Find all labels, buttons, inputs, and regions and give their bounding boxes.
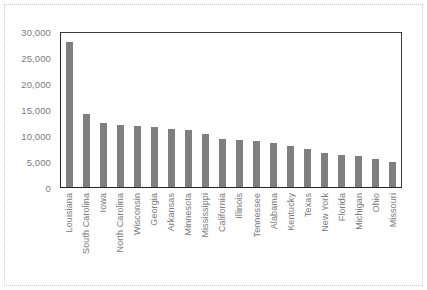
x-axis-tick-label: Michigan <box>354 193 364 230</box>
x-axis-tick-label: New York <box>320 193 330 232</box>
x-axis-tick: Florida <box>334 188 351 283</box>
bar-slot <box>197 33 214 187</box>
x-axis-tick-label: California <box>217 193 227 232</box>
bar-slot <box>333 33 350 187</box>
x-axis-tick: Alabama <box>265 188 282 283</box>
bar-slot <box>180 33 197 187</box>
x-axis-tick: Texas <box>299 188 316 283</box>
x-axis-tick-label: Mississippi <box>200 193 210 238</box>
bar[interactable] <box>100 123 107 187</box>
x-axis-tick-label: Alabama <box>269 193 279 229</box>
x-axis-tick-label: South Carolina <box>81 193 91 254</box>
x-axis-tick: North Carolina <box>111 188 128 283</box>
y-axis-tick-label: 30,000 <box>21 27 51 38</box>
bar[interactable] <box>253 141 260 187</box>
x-axis-tick: Mississippi <box>197 188 214 283</box>
bar[interactable] <box>304 149 311 187</box>
bar-slot <box>163 33 180 187</box>
bar-slot <box>248 33 265 187</box>
x-axis-tick: Louisiana <box>60 188 77 283</box>
bar[interactable] <box>389 162 396 187</box>
bar[interactable] <box>83 114 90 187</box>
x-axis-tick-label: Texas <box>303 193 313 217</box>
bar-slot <box>231 33 248 187</box>
x-axis-tick: New York <box>316 188 333 283</box>
bar-slot <box>61 33 78 187</box>
bar-slot <box>316 33 333 187</box>
bar-slot <box>367 33 384 187</box>
bar[interactable] <box>338 155 345 187</box>
y-axis-tick-label: 10,000 <box>21 131 51 142</box>
x-axis-tick-label: Florida <box>337 193 347 221</box>
bar[interactable] <box>219 139 226 187</box>
bar-slot <box>384 33 401 187</box>
y-axis-tick-label: 5,000 <box>27 157 51 168</box>
bar[interactable] <box>355 156 362 187</box>
x-axis-tick-label: Wisconsin <box>132 193 142 235</box>
bar-slot <box>112 33 129 187</box>
bar-series <box>61 33 401 187</box>
bar-slot <box>214 33 231 187</box>
bar[interactable] <box>66 42 73 187</box>
bar[interactable] <box>372 159 379 187</box>
x-axis-tick-label: Minnesota <box>183 193 193 235</box>
chart-container: 05,00010,00015,00020,00025,00030,000 Lou… <box>4 4 423 286</box>
x-axis-tick-label: Iowa <box>98 193 108 212</box>
x-axis-tick: Kentucky <box>282 188 299 283</box>
x-axis-tick-label: Georgia <box>149 193 159 226</box>
bar[interactable] <box>236 140 243 187</box>
x-axis-tick-label: Tennessee <box>252 193 262 237</box>
bar[interactable] <box>202 134 209 187</box>
bar[interactable] <box>287 146 294 187</box>
bar[interactable] <box>185 130 192 187</box>
x-axis-tick-label: Kentucky <box>286 193 296 231</box>
x-axis-tick: Illinois <box>231 188 248 283</box>
bar-slot <box>265 33 282 187</box>
x-axis-tick: Missouri <box>385 188 402 283</box>
bar[interactable] <box>168 129 175 187</box>
bar[interactable] <box>151 127 158 187</box>
x-axis-tick: Iowa <box>94 188 111 283</box>
x-axis-tick: South Carolina <box>77 188 94 283</box>
bar[interactable] <box>321 153 328 187</box>
x-axis-tick-label: Louisiana <box>64 193 74 232</box>
plot-area <box>60 32 402 188</box>
x-axis-tick-label: North Carolina <box>115 193 125 252</box>
y-axis-tick-label: 20,000 <box>21 79 51 90</box>
x-axis-tick-label: Illinois <box>234 193 244 219</box>
bar[interactable] <box>117 125 124 187</box>
bar-slot <box>95 33 112 187</box>
x-axis-tick: Arkansas <box>163 188 180 283</box>
x-axis-tick: Michigan <box>351 188 368 283</box>
x-axis-tick: Wisconsin <box>128 188 145 283</box>
x-axis-tick: Tennessee <box>248 188 265 283</box>
x-axis-tick: California <box>214 188 231 283</box>
bar-slot <box>299 33 316 187</box>
x-axis-tick: Ohio <box>368 188 385 283</box>
bar[interactable] <box>270 143 277 187</box>
bar[interactable] <box>134 126 141 187</box>
x-axis: LouisianaSouth CarolinaIowaNorth Carolin… <box>60 188 402 283</box>
x-axis-tick-label: Missouri <box>388 193 398 227</box>
bar-slot <box>282 33 299 187</box>
bar-slot <box>350 33 367 187</box>
y-axis: 05,00010,00015,00020,00025,00030,000 <box>5 32 55 188</box>
x-axis-tick-label: Ohio <box>371 193 381 212</box>
x-axis-tick: Minnesota <box>180 188 197 283</box>
y-axis-tick-label: 0 <box>46 183 51 194</box>
y-axis-tick-label: 25,000 <box>21 53 51 64</box>
x-axis-tick: Georgia <box>145 188 162 283</box>
bar-slot <box>78 33 95 187</box>
y-axis-tick-label: 15,000 <box>21 105 51 116</box>
bar-slot <box>129 33 146 187</box>
bar-slot <box>146 33 163 187</box>
x-axis-tick-label: Arkansas <box>166 193 176 231</box>
